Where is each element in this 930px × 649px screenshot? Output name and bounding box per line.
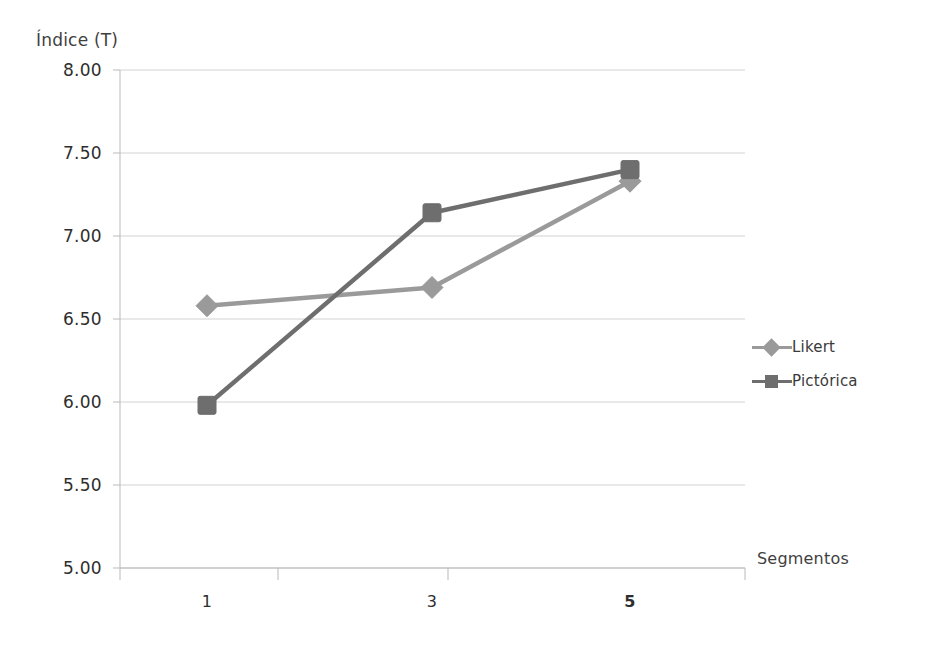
line-chart: Índice (T) Segmentos 8.007.507.006.506.0…	[0, 0, 930, 649]
legend-label: Likert	[792, 338, 835, 356]
legend-key-marker	[765, 375, 778, 388]
legend-item-likert[interactable]: Likert	[752, 330, 922, 364]
data-point-marker-square	[198, 396, 216, 414]
series-line-likert	[207, 181, 630, 306]
data-point-marker-diamond	[196, 295, 218, 317]
legend-item-pictórica[interactable]: Pictórica	[752, 364, 922, 398]
legend-key-diamond-icon	[752, 339, 792, 355]
legend-key-square-icon	[752, 373, 792, 389]
data-point-marker-square	[621, 161, 639, 179]
chart-legend: LikertPictórica	[752, 330, 922, 398]
legend-key-marker	[762, 338, 780, 356]
data-point-marker-square	[423, 204, 441, 222]
plot-area	[0, 0, 930, 649]
data-point-marker-diamond	[421, 276, 443, 298]
legend-label: Pictórica	[792, 372, 858, 390]
